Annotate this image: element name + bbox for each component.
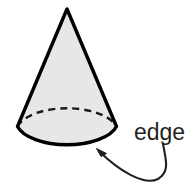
leader-line [100,144,167,181]
cone-shape [18,9,117,145]
cone-body-fill [18,9,117,145]
leader-arrowhead [97,149,107,157]
edge-callout [97,144,167,181]
cone-figure: edge [0,0,194,192]
edge-label: edge [134,119,185,145]
diagram-canvas: edge [0,0,194,192]
